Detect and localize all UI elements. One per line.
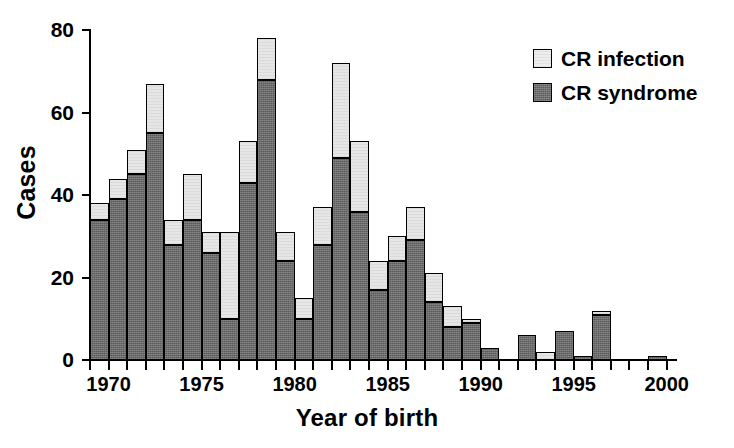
bar-1987 bbox=[425, 273, 444, 360]
bar-1984 bbox=[369, 261, 388, 360]
bar-segment-cr-infection bbox=[202, 232, 221, 253]
x-axis-tick bbox=[349, 361, 351, 370]
y-axis-tick-label: 80 bbox=[28, 19, 74, 40]
bar-1981 bbox=[313, 207, 332, 360]
bar-segment-cr-syndrome bbox=[202, 253, 221, 360]
bar-segment-cr-syndrome bbox=[369, 290, 388, 360]
bar-1985 bbox=[388, 236, 407, 360]
x-axis-tick bbox=[108, 361, 110, 370]
bar-segment-cr-infection bbox=[462, 319, 481, 323]
bar-segment-cr-syndrome bbox=[164, 245, 183, 361]
bar-segment-cr-syndrome bbox=[518, 335, 537, 360]
bar-segment-cr-syndrome bbox=[90, 220, 109, 360]
bar-segment-cr-infection bbox=[406, 207, 425, 240]
bar-1978 bbox=[257, 38, 276, 360]
bar-segment-cr-syndrome bbox=[239, 183, 258, 360]
bar-segment-cr-syndrome bbox=[406, 240, 425, 360]
bar-segment-cr-infection bbox=[239, 141, 258, 182]
bar-1996 bbox=[592, 311, 611, 361]
bar-1999 bbox=[648, 356, 667, 360]
bar-segment-cr-infection bbox=[425, 273, 444, 302]
legend-label-cr-syndrome: CR syndrome bbox=[561, 82, 698, 103]
x-axis-tick bbox=[573, 361, 575, 370]
bar-segment-cr-syndrome bbox=[295, 319, 314, 360]
bar-segment-cr-infection bbox=[164, 220, 183, 245]
bar-1975 bbox=[202, 232, 221, 360]
bar-1974 bbox=[183, 174, 202, 360]
bar-segment-cr-syndrome bbox=[146, 133, 165, 360]
x-axis-tick bbox=[498, 361, 500, 370]
bar-segment-cr-infection bbox=[313, 207, 332, 244]
light-square-swatch-icon bbox=[533, 49, 552, 68]
bar-1989 bbox=[462, 319, 481, 360]
bar-1982 bbox=[332, 63, 351, 360]
y-axis-tick bbox=[82, 112, 90, 114]
bar-1971 bbox=[127, 150, 146, 360]
x-axis-tick-label: 1980 bbox=[260, 374, 330, 394]
bar-segment-cr-infection bbox=[332, 63, 351, 158]
bar-1972 bbox=[146, 84, 165, 360]
bar-segment-cr-infection bbox=[350, 141, 369, 211]
x-axis-tick-label: 2000 bbox=[632, 374, 702, 394]
x-axis-tick bbox=[126, 361, 128, 370]
x-axis-tick bbox=[535, 361, 537, 370]
bar-segment-cr-infection bbox=[183, 174, 202, 219]
bar-segment-cr-infection bbox=[443, 306, 462, 327]
x-axis-tick bbox=[275, 361, 277, 370]
bar-segment-cr-infection bbox=[257, 38, 276, 79]
x-axis-tick-label: 1985 bbox=[353, 374, 423, 394]
x-axis-tick bbox=[294, 361, 296, 370]
bar-segment-cr-syndrome bbox=[388, 261, 407, 360]
bar-segment-cr-infection bbox=[592, 311, 611, 315]
x-axis-tick bbox=[312, 361, 314, 370]
bar-segment-cr-infection bbox=[90, 203, 109, 220]
legend-item-cr-infection: CR infection bbox=[533, 48, 698, 69]
x-axis-tick bbox=[89, 361, 91, 370]
bar-segment-cr-infection bbox=[109, 179, 128, 200]
bar-1980 bbox=[295, 298, 314, 360]
bar-1983 bbox=[350, 141, 369, 360]
x-axis-tick bbox=[647, 361, 649, 370]
bar-1970 bbox=[109, 179, 128, 361]
bar-1986 bbox=[406, 207, 425, 360]
x-axis-tick-label: 1975 bbox=[167, 374, 237, 394]
bar-segment-cr-infection bbox=[276, 232, 295, 261]
bar-segment-cr-syndrome bbox=[648, 356, 667, 360]
x-axis-tick bbox=[461, 361, 463, 370]
bar-segment-cr-infection bbox=[146, 84, 165, 134]
x-axis-tick bbox=[610, 361, 612, 370]
bar-segment-cr-infection bbox=[536, 352, 555, 360]
bar-1994 bbox=[555, 331, 574, 360]
rubella-cases-bar-chart: 020406080 1970197519801985199019952000 C… bbox=[0, 0, 734, 448]
y-axis-tick bbox=[82, 194, 90, 196]
x-axis-tick bbox=[163, 361, 165, 370]
bar-segment-cr-syndrome bbox=[276, 261, 295, 360]
x-axis-tick bbox=[517, 361, 519, 370]
bar-segment-cr-syndrome bbox=[127, 174, 146, 360]
bar-segment-cr-syndrome bbox=[109, 199, 128, 360]
x-axis-tick-label: 1995 bbox=[539, 374, 609, 394]
x-axis-tick bbox=[238, 361, 240, 370]
x-axis-tick bbox=[591, 361, 593, 370]
y-axis-tick bbox=[82, 29, 90, 31]
x-axis-tick bbox=[666, 361, 668, 370]
x-axis-tick-label: 1990 bbox=[446, 374, 516, 394]
bar-segment-cr-syndrome bbox=[257, 80, 276, 361]
x-axis-tick bbox=[256, 361, 258, 370]
x-axis-tick bbox=[387, 361, 389, 370]
y-axis-tick-label: 20 bbox=[28, 267, 74, 288]
bar-1988 bbox=[443, 306, 462, 360]
bar-1992 bbox=[518, 335, 537, 360]
bar-1977 bbox=[239, 141, 258, 360]
bar-1969 bbox=[90, 203, 109, 360]
bar-segment-cr-syndrome bbox=[220, 319, 239, 360]
x-axis-tick-label: 1970 bbox=[74, 374, 144, 394]
x-axis-tick bbox=[201, 361, 203, 370]
x-axis-tick bbox=[405, 361, 407, 370]
bar-segment-cr-syndrome bbox=[313, 245, 332, 361]
bar-segment-cr-syndrome bbox=[350, 212, 369, 361]
bar-segment-cr-syndrome bbox=[481, 348, 500, 360]
bar-segment-cr-syndrome bbox=[555, 331, 574, 360]
x-axis-title: Year of birth bbox=[0, 404, 734, 432]
bar-segment-cr-syndrome bbox=[462, 323, 481, 360]
